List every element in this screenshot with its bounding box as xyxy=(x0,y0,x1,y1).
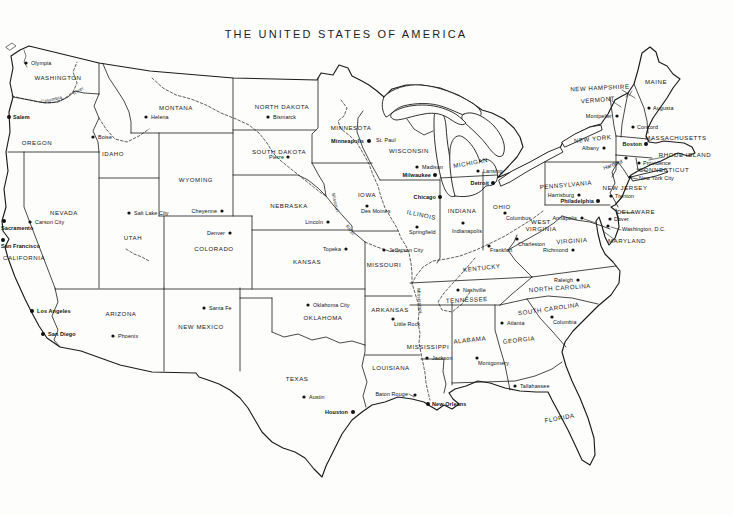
city-dot-harrisburg xyxy=(577,193,580,196)
city-label-helena: Helena xyxy=(151,114,169,120)
state-label-mississippi: MISSISSIPPI xyxy=(407,343,449,350)
city-label-montpelier: Montpelier xyxy=(586,113,612,119)
city-dot-austin xyxy=(302,395,305,398)
city-label-augusta: Augusta xyxy=(653,105,673,111)
ohio-river xyxy=(412,211,543,284)
state-label-oregon: OREGON xyxy=(22,139,52,146)
city-dot-annapolis xyxy=(580,216,583,219)
state-label-tennessee: TENNESSEE xyxy=(446,295,488,304)
map-page: THE UNITED STATES OF AMERICA xyxy=(0,0,733,515)
city-dot-philadelphia xyxy=(596,199,600,203)
city-label-jefferson-city: Jefferson City xyxy=(389,247,423,253)
map-geometry xyxy=(2,43,695,477)
state-label-connecticut: CONNECTICUT xyxy=(639,166,689,173)
state-label-maine: MAINE xyxy=(645,78,667,85)
state-label-nebraska: NEBRASKA xyxy=(270,202,308,209)
state-label-minnesota: MINNESOTA xyxy=(331,124,372,131)
city-dot-montpelier xyxy=(615,114,618,117)
city-dot-atlanta xyxy=(500,321,503,324)
city-label-raleigh: Raleigh xyxy=(554,277,573,283)
city-label-bismarck: Bismarck xyxy=(273,114,296,120)
city-label-richmond: Richmond xyxy=(543,247,568,253)
city-label-oklahoma-city: Oklahoma City xyxy=(313,302,350,308)
city-label-albany: Albany xyxy=(582,145,599,151)
state-label-arkansas: ARKANSAS xyxy=(371,306,409,313)
city-label-minneapolis: Minneapolis xyxy=(331,138,364,144)
state-label-washington: WASHINGTON xyxy=(34,74,81,81)
city-dot-oklahoma-city xyxy=(306,303,309,306)
city-dot-phoenix xyxy=(111,334,114,337)
city-label-lincoln: Lincoln xyxy=(305,219,323,225)
city-dot-baton-rouge xyxy=(413,393,416,396)
city-label-annapolis: Annapolis xyxy=(552,215,577,221)
city-label-new-york-city: New York City xyxy=(639,175,674,181)
state-label-alabama: ALABAMA xyxy=(453,334,487,344)
river-label-mississippi: Mississippi xyxy=(416,288,423,313)
map-title: THE UNITED STATES OF AMERICA xyxy=(225,28,468,40)
city-label-cheyenne: Cheyenne xyxy=(192,208,217,214)
city-label-topeka: Topeka xyxy=(323,246,341,252)
state-label-arizona: ARIZONA xyxy=(106,310,137,317)
city-dot-augusta xyxy=(647,106,650,109)
city-dot-milwaukee xyxy=(433,173,437,177)
city-dot-santa-fe xyxy=(202,306,205,309)
city-label-madison: Madison xyxy=(422,164,443,170)
city-label-milwaukee: Milwaukee xyxy=(403,172,431,178)
city-dot-bismarck xyxy=(266,115,269,118)
city-dot-sacramento xyxy=(2,219,6,223)
state-label-oklahoma: OKLAHOMA xyxy=(304,314,343,321)
state-label-pennsylvania: PENNSYLVANIA xyxy=(539,179,592,191)
state-label-georgia: GEORGIA xyxy=(502,334,535,344)
state-label-kansas: KANSAS xyxy=(293,258,321,265)
city-label-chicago: Chicago xyxy=(414,194,437,200)
map-labels: WASHINGTONOREGONCALIFORNIANEVADAIDAHOMON… xyxy=(1,60,711,424)
state-label-massachusetts: MASSACHUSETTS xyxy=(645,134,706,141)
state-label-iowa: IOWA xyxy=(358,191,377,198)
state-label-new-mexico: NEW MEXICO xyxy=(178,323,223,330)
city-label-montgomery: Montgomery xyxy=(478,360,509,366)
city-dot-new-york-city xyxy=(628,175,631,178)
city-label-atlanta: Atlanta xyxy=(507,320,524,326)
city-label-springfield: Springfield xyxy=(409,229,436,235)
city-label-carson-city: Carson City xyxy=(35,219,64,225)
city-label-tallahassee: Tallahassee xyxy=(520,383,550,389)
river-label-river: River xyxy=(72,85,85,95)
city-dot-minneapolis xyxy=(367,139,371,143)
city-label-providence: Providence xyxy=(643,160,671,166)
state-label-wisconsin: WISCONSIN xyxy=(389,147,429,154)
city-dot-trenton xyxy=(609,194,612,197)
city-dot-carson-city xyxy=(28,220,31,223)
city-label-des-moines: Des Moines xyxy=(361,208,391,214)
city-dot-nashville xyxy=(456,288,459,291)
city-label-columbus: Columbus xyxy=(506,215,531,221)
city-label-austin: Austin xyxy=(309,394,325,400)
city-label-detroit: Detroit xyxy=(471,180,489,186)
city-dot-albany xyxy=(602,146,605,149)
city-label-salem: Salem xyxy=(13,114,30,120)
city-label-hartford: Hartford xyxy=(602,158,623,171)
river-label-missouri: Missouri xyxy=(331,193,340,213)
coast-detail xyxy=(6,43,27,67)
columbia-river xyxy=(12,62,77,103)
city-label-washington-d-c: Washington, D.C. xyxy=(622,226,666,232)
city-dot-san-diego xyxy=(41,332,45,336)
state-label-north-carolina: NORTH CAROLINA xyxy=(529,282,592,293)
state-label-south-carolina: SOUTH CAROLINA xyxy=(518,301,581,317)
city-dot-helena xyxy=(144,115,147,118)
city-label-denver: Denver xyxy=(207,230,225,236)
city-dot-los-angeles xyxy=(30,309,34,313)
city-dot-lincoln xyxy=(326,220,329,223)
city-label-baton-rouge: Baton Rouge xyxy=(375,391,408,397)
callout-line xyxy=(611,227,621,230)
city-dot-houston xyxy=(351,410,355,414)
us-map: THE UNITED STATES OF AMERICA xyxy=(0,0,733,515)
city-dot-lansing xyxy=(476,169,479,172)
state-label-vermont: VERMONT xyxy=(580,95,615,105)
city-label-jackson: Jackson xyxy=(432,355,452,361)
city-dot-cheyenne xyxy=(220,209,223,212)
state-label-florida: FLORIDA xyxy=(544,411,575,423)
city-label-indianapolis: Indianapolis xyxy=(452,228,482,234)
city-dot-salem xyxy=(7,115,11,119)
city-label-concord: Concord xyxy=(637,124,658,130)
state-label-delaware: DELAWARE xyxy=(617,208,655,215)
